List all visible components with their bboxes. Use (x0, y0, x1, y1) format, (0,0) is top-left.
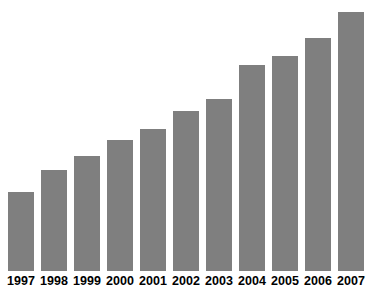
x-axis-label: 2007 (335, 274, 367, 288)
x-axis-label: 2005 (269, 274, 301, 288)
bar[interactable] (74, 156, 100, 271)
x-axis-label: 2003 (203, 274, 235, 288)
bar[interactable] (8, 192, 34, 271)
bar-group: 957.5 (272, 0, 298, 271)
plot-area: 352.8447.6511.6581.8630.8710.0764.1914.0… (0, 0, 372, 271)
bar[interactable] (206, 99, 232, 271)
x-axis-label: 1997 (5, 274, 37, 288)
bar-chart: 352.8447.6511.6581.8630.8710.0764.1914.0… (0, 0, 372, 300)
bar[interactable] (338, 12, 364, 271)
x-axis-label: 1998 (38, 274, 70, 288)
x-axis-label: 2004 (236, 274, 268, 288)
x-axis-label: 2002 (170, 274, 202, 288)
bar[interactable] (239, 65, 265, 271)
bar-group: 447.6 (41, 0, 67, 271)
bar-group: 1,035.3 (305, 0, 331, 271)
x-axis-label: 2000 (104, 274, 136, 288)
bar-group: 581.8 (107, 0, 133, 271)
bar-group: 1,149.8 (338, 0, 364, 271)
x-axis-label: 1999 (71, 274, 103, 288)
x-axis-label: 2001 (137, 274, 169, 288)
bar[interactable] (107, 140, 133, 271)
bar-group: 764.1 (206, 0, 232, 271)
bar-group: 630.8 (140, 0, 166, 271)
bar[interactable] (173, 111, 199, 271)
bar-group: 710.0 (173, 0, 199, 271)
bar[interactable] (140, 129, 166, 271)
x-axis-labels: 1997199819992000200120022003200420052006… (0, 271, 372, 300)
bar-value-label: 352.8 (0, 166, 5, 197)
bar-group: 352.8 (8, 0, 34, 271)
bar-group: 511.6 (74, 0, 100, 271)
bar[interactable] (41, 170, 67, 271)
bar[interactable] (305, 38, 331, 271)
bar[interactable] (272, 56, 298, 271)
x-axis-label: 2006 (302, 274, 334, 288)
bar-group: 914.0 (239, 0, 265, 271)
